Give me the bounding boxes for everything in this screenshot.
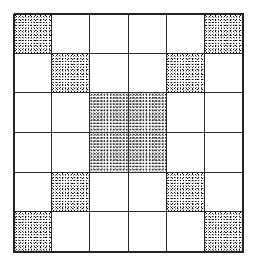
grid-cell-r3-c0: [14, 133, 52, 173]
grid-cell-r2-c3: [129, 93, 167, 133]
grid-cell-r0-c1: [52, 14, 90, 54]
grid-cell-r5-c0: [14, 212, 52, 252]
grid-cell-r4-c3: [129, 173, 167, 213]
grid-cell-r4-c5: [205, 173, 243, 213]
grid-cell-r5-c5: [205, 212, 243, 252]
grid-cell-r3-c5: [205, 133, 243, 173]
grid-cell-r4-c2: [90, 173, 128, 213]
grid-cell-r4-c1: [52, 173, 90, 213]
grid-cell-r2-c0: [14, 93, 52, 133]
grid-cell-r5-c1: [52, 212, 90, 252]
grid-cell-r3-c2: [90, 133, 128, 173]
grid-cell-r1-c2: [90, 54, 128, 94]
grid-cell-r2-c2: [90, 93, 128, 133]
grid-cell-r5-c3: [129, 212, 167, 252]
grid-cell-r1-c4: [167, 54, 205, 94]
grid-cell-r4-c4: [167, 173, 205, 213]
grid-cell-r0-c2: [90, 14, 128, 54]
grid-cell-r1-c5: [205, 54, 243, 94]
grid-cell-r5-c2: [90, 212, 128, 252]
grid-cell-r3-c4: [167, 133, 205, 173]
grid-cell-r2-c4: [167, 93, 205, 133]
grid-cell-r2-c1: [52, 93, 90, 133]
grid-cell-r3-c1: [52, 133, 90, 173]
grid-cell-r0-c5: [205, 14, 243, 54]
grid-cell-r0-c0: [14, 14, 52, 54]
grid-cell-r3-c3: [129, 133, 167, 173]
grid-cell-r5-c4: [167, 212, 205, 252]
grid-cell-r1-c1: [52, 54, 90, 94]
grid-cell-r4-c0: [14, 173, 52, 213]
grid-diagram: [14, 14, 243, 252]
grid-cell-r2-c5: [205, 93, 243, 133]
grid-cell-r1-c0: [14, 54, 52, 94]
grid-cell-r0-c4: [167, 14, 205, 54]
figure-canvas: [0, 0, 253, 261]
grid-cell-r0-c3: [129, 14, 167, 54]
grid-cell-r1-c3: [129, 54, 167, 94]
